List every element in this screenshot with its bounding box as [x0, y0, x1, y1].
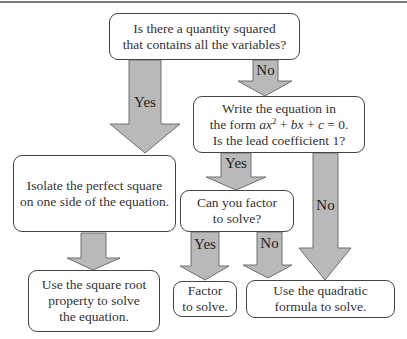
- node-text: Isolate the perfect square on one side o…: [20, 178, 169, 210]
- node-text: Is there a quantity squared that contain…: [123, 21, 286, 53]
- node-text: Can you factor to solve?: [197, 195, 277, 227]
- edge-label-no: No: [257, 235, 282, 252]
- node-text: Use the square root property to solve th…: [42, 277, 147, 325]
- node-quantity-squared-question: Is there a quantity squared that contain…: [109, 13, 300, 60]
- node-text: Factor to solve.: [182, 283, 228, 315]
- arrow-isolate-sqroot: [67, 233, 120, 270]
- edge-label-no: No: [253, 62, 278, 79]
- node-quadratic-formula: Use the quadratic formula to solve.: [246, 280, 395, 318]
- node-standard-form-question: Write the equation in the form ax2 + bx …: [193, 96, 365, 153]
- edge-label-yes: Yes: [221, 155, 251, 172]
- edge-label-yes: Yes: [191, 236, 219, 253]
- node-factor-question: Can you factor to solve?: [180, 190, 294, 232]
- arrow-no-q2-quadratic: [299, 153, 351, 280]
- node-text: Use the quadratic formula to solve.: [273, 283, 367, 315]
- node-isolate-perfect-square: Isolate the perfect square on one side o…: [13, 155, 176, 232]
- node-text: Write the equation in the form ax2 + bx …: [210, 101, 349, 149]
- edge-label-no: No: [313, 197, 338, 214]
- node-factor-to-solve: Factor to solve.: [173, 281, 237, 317]
- edge-label-yes: Yes: [129, 94, 161, 111]
- node-square-root-property: Use the square root property to solve th…: [28, 270, 160, 332]
